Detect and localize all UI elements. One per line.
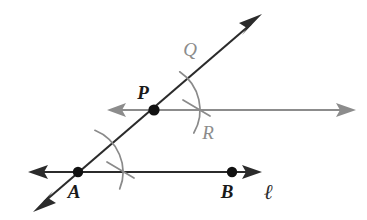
compass-tick-at-P	[183, 100, 210, 116]
compass-tick-at-A	[107, 162, 134, 178]
point-A	[73, 167, 83, 177]
compass-arc-at-A	[95, 130, 123, 189]
line-label-ell: ℓ	[264, 180, 273, 204]
point-B	[227, 167, 237, 177]
point-label-A: A	[67, 181, 81, 202]
point-P	[148, 104, 159, 115]
geometry-figure: A B P Q R ℓ	[0, 0, 367, 220]
point-label-P: P	[136, 82, 149, 103]
geometry-canvas: A B P Q R ℓ	[0, 0, 367, 220]
point-label-B: B	[220, 181, 234, 202]
compass-arc-at-A-group	[95, 130, 134, 189]
arc-label-R: R	[201, 122, 214, 143]
arc-label-Q: Q	[183, 39, 197, 60]
compass-arc-at-P	[180, 72, 200, 133]
